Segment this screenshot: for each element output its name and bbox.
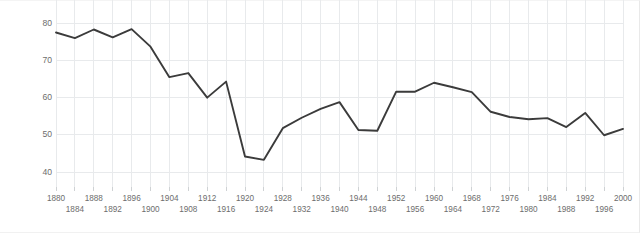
x-tick-label: 1892	[104, 205, 122, 215]
y-tick-label: 50	[30, 130, 52, 139]
x-tick-label: 1972	[482, 205, 500, 215]
y-axis-tick-labels: 4050607080	[28, 12, 52, 187]
x-tick-label: 1936	[311, 194, 329, 204]
x-tick-label: 1988	[557, 205, 575, 215]
x-tick-label: 1944	[349, 194, 367, 204]
x-tick-label: 2000	[614, 194, 632, 204]
plot-svg	[56, 12, 623, 187]
x-tick-label: 1920	[236, 194, 254, 204]
x-tick-label: 1928	[274, 194, 292, 204]
x-tick-label: 1924	[255, 205, 273, 215]
x-tick-label: 1960	[425, 194, 443, 204]
y-tick-label: 60	[30, 93, 52, 102]
x-tick-label: 1884	[66, 205, 84, 215]
x-tick-label: 1932	[293, 205, 311, 215]
plot-area	[56, 12, 623, 187]
x-tick-label: 1952	[387, 194, 405, 204]
x-tick-label: 1996	[595, 205, 613, 215]
y-tick-label: 70	[30, 56, 52, 65]
x-tick-label: 1956	[406, 205, 424, 215]
x-axis-tick-labels: 1880188818961904191219201928193619441952…	[56, 188, 623, 222]
vertical-gridlines	[56, 0, 623, 187]
x-tick-label: 1888	[85, 194, 103, 204]
x-tick-label: 1992	[576, 194, 594, 204]
line-chart: Percentage of voting-age population part…	[0, 0, 641, 234]
x-tick-label: 1964	[444, 205, 462, 215]
x-tick-label: 1908	[179, 205, 197, 215]
x-tick-label: 1904	[160, 194, 178, 204]
x-tick-label: 1968	[463, 194, 481, 204]
x-tick-label: 1984	[538, 194, 556, 204]
x-tick-label: 1896	[122, 194, 140, 204]
x-tick-label: 1948	[368, 205, 386, 215]
x-tick-label: 1940	[330, 205, 348, 215]
x-tick-label: 1912	[198, 194, 216, 204]
x-tick-label: 1900	[141, 205, 159, 215]
x-tick-label: 1980	[519, 205, 537, 215]
y-tick-label: 80	[30, 19, 52, 28]
x-tick-label: 1916	[217, 205, 235, 215]
y-tick-label: 40	[30, 168, 52, 177]
x-tick-label: 1976	[500, 194, 518, 204]
x-tick-label: 1880	[47, 194, 65, 204]
